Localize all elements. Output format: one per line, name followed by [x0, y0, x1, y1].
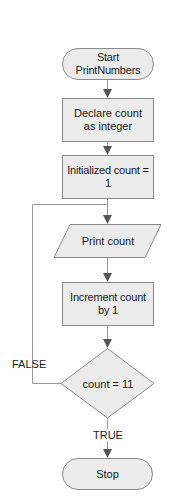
arrowhead-icon — [103, 89, 112, 98]
arrowhead-icon — [103, 449, 112, 458]
print-node-label: Print count — [62, 224, 154, 258]
start-node-label: Start PrintNumbers — [62, 48, 154, 80]
decision-node-label: count = 11 — [72, 374, 144, 394]
arrowhead-icon — [103, 146, 112, 155]
true-edge-label: TRUE — [93, 429, 123, 441]
increment-node-label: Increment count by 1 — [62, 282, 154, 326]
stop-node-label: Stop — [62, 458, 153, 490]
init-node-label: Initialized count = 1 — [62, 155, 154, 199]
arrowhead-icon — [103, 339, 112, 348]
false-edge-label: FALSE — [12, 358, 46, 370]
arrowhead-icon — [103, 215, 112, 224]
declare-node-label: Declare count as integer — [62, 98, 154, 142]
arrowhead-icon — [103, 273, 112, 282]
